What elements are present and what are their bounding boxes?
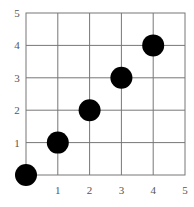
data-point (79, 99, 101, 121)
y-tick-label: 3 (14, 72, 20, 84)
y-tick-label: 2 (14, 104, 20, 116)
grid-lines (26, 13, 185, 175)
y-tick-label: 5 (14, 7, 20, 19)
x-axis-ticks: 12345 (55, 184, 188, 196)
x-tick-label: 3 (119, 184, 125, 196)
data-point (15, 164, 37, 186)
data-point (110, 67, 132, 89)
data-point (47, 132, 69, 154)
y-tick-label: 4 (14, 39, 20, 51)
scatter-chart: 12345 12345 (0, 0, 194, 207)
plot-frame (26, 13, 185, 175)
x-tick-label: 5 (182, 184, 188, 196)
data-point (142, 34, 164, 56)
x-tick-label: 4 (150, 184, 156, 196)
x-tick-label: 1 (55, 184, 61, 196)
x-tick-label: 2 (87, 184, 93, 196)
y-tick-label: 1 (14, 137, 20, 149)
y-axis-ticks: 12345 (14, 7, 20, 149)
